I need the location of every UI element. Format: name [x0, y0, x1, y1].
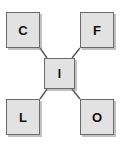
edge-o-i [72, 89, 80, 99]
node-f[interactable]: F [80, 12, 114, 48]
node-l[interactable]: L [6, 99, 40, 135]
diagram-canvas: C F I L O [0, 0, 120, 148]
edge-l-i [40, 89, 47, 99]
node-f-label: F [93, 24, 101, 37]
node-i-label: I [58, 68, 61, 80]
node-c[interactable]: C [6, 12, 40, 48]
edge-f-i [72, 48, 80, 58]
node-l-label: L [19, 111, 27, 124]
node-c-label: C [18, 24, 27, 37]
edge-c-i [40, 48, 47, 58]
node-o[interactable]: O [80, 99, 114, 135]
node-o-label: O [92, 111, 102, 124]
node-i[interactable]: I [44, 58, 75, 89]
